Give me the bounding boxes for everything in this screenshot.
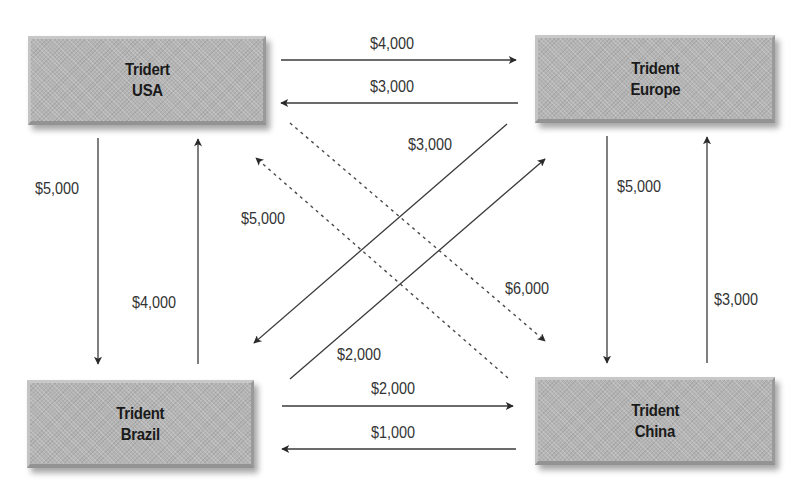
entity-box-brazil: Trident Brazil	[27, 380, 254, 468]
arrow-china-to-usa	[256, 158, 508, 378]
amount-china-to-brazil: $1,000	[371, 424, 415, 442]
amount-china-to-usa: $5,000	[241, 210, 285, 228]
entity-box-china: Trident China	[535, 377, 775, 465]
amount-europe-to-brazil: $3,000	[408, 136, 452, 154]
amount-usa-to-europe: $4,000	[370, 35, 414, 53]
entity-europe-line1: Trident	[631, 58, 679, 79]
amount-china-to-europe: $3,000	[714, 291, 758, 309]
arrow-brazil-to-europe	[290, 159, 545, 379]
entity-brazil-line1: Trident	[116, 403, 164, 424]
entity-usa-line2: USA	[132, 80, 163, 101]
amount-europe-to-usa: $3,000	[370, 78, 414, 96]
amount-brazil-to-europe: $2,000	[337, 346, 381, 364]
amount-brazil-to-usa: $4,000	[132, 294, 176, 312]
entity-china-line1: Trident	[631, 400, 679, 421]
amount-usa-to-brazil: $5,000	[35, 180, 79, 198]
entity-usa-line1: Tridert	[125, 59, 170, 80]
amount-usa-to-china: $6,000	[505, 280, 549, 298]
entity-box-usa: Tridert USA	[28, 36, 266, 125]
amount-brazil-to-china: $2,000	[371, 380, 415, 398]
entity-china-line2: China	[635, 421, 675, 442]
entity-brazil-line2: Brazil	[121, 424, 160, 445]
arrow-usa-to-china	[290, 123, 545, 341]
entity-europe-line2: Europe	[630, 79, 680, 100]
arrow-europe-to-brazil	[254, 124, 507, 343]
intercompany-flow-diagram: Tridert USA Trident Europe Trident Brazi…	[0, 0, 810, 494]
amount-europe-to-china: $5,000	[617, 178, 661, 196]
entity-box-europe: Trident Europe	[535, 35, 775, 123]
